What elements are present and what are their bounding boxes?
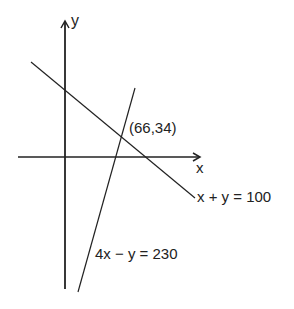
equation-label-1: x + y = 100 <box>197 189 271 204</box>
graph-canvas <box>0 0 294 309</box>
x-axis-label: x <box>196 160 204 175</box>
intersection-label: (66,34) <box>129 120 177 135</box>
equation-label-2: 4x − y = 230 <box>95 246 178 261</box>
y-axis-label: y <box>71 13 79 29</box>
